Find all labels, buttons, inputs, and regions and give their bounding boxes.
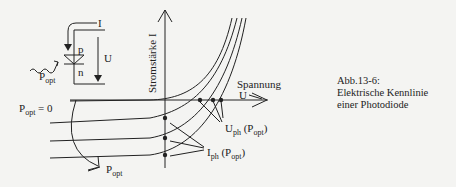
current-arrowhead-icon	[64, 44, 72, 51]
iph-arg-sub: opt	[231, 152, 241, 161]
light-label: Popt	[39, 70, 55, 87]
iph-pointer-3	[170, 150, 204, 156]
current-arrow	[68, 23, 97, 45]
voltage-arrowhead-icon	[94, 75, 102, 82]
uph-sub: ph	[233, 128, 241, 137]
uph-pointer-3	[221, 101, 223, 118]
popt-zero-label: Popt = 0	[19, 102, 53, 119]
iph-close: )	[241, 146, 245, 158]
iph-point	[163, 136, 167, 140]
uph-pointer-1	[200, 102, 220, 122]
light-arrowhead-icon	[54, 61, 58, 66]
caption-line-1: Abb.13-6:	[337, 75, 428, 87]
y-axis-label: Stromstärke I	[146, 33, 158, 93]
iph-label: Iph (Popt)	[207, 146, 245, 163]
popt-arrow	[71, 100, 98, 166]
caption-line-3: einer Photodiode	[337, 99, 428, 111]
iph-point	[163, 116, 167, 120]
uph-arg-sub: opt	[253, 128, 263, 137]
x-axis-label-u: U	[239, 89, 247, 101]
popt-arrow-sub: opt	[112, 169, 122, 178]
popt-arrow-label: Popt	[106, 163, 122, 180]
caption-line-2: Elektrische Kennlinie	[337, 87, 428, 99]
figure-caption: Abb.13-6: Elektrische Kennlinie einer Ph…	[337, 75, 428, 111]
iph-sub: ph	[211, 152, 219, 161]
popt-zero-sub: opt	[25, 108, 35, 117]
n-label: n	[78, 66, 84, 78]
uph-close: )	[264, 122, 268, 134]
uph-arg: (P	[241, 122, 254, 134]
uph-point	[198, 98, 202, 102]
light-label-sub: opt	[45, 76, 55, 85]
uph-point	[211, 98, 215, 102]
p-label: p	[78, 43, 84, 55]
popt-zero-suffix: = 0	[35, 102, 52, 114]
uph-main: U	[225, 122, 233, 134]
current-label: I	[98, 17, 102, 29]
iph-pointer-1	[170, 123, 204, 147]
voltage-label: U	[104, 52, 112, 64]
uph-label: Uph (Popt)	[225, 122, 267, 139]
uph-point	[219, 98, 223, 102]
iph-arg: (P	[219, 146, 232, 158]
iph-point	[163, 153, 167, 157]
